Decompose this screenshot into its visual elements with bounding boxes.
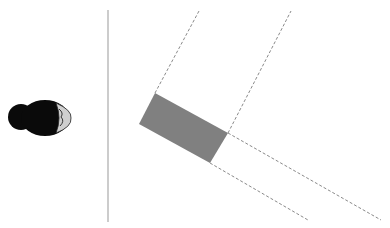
- dashed-line-3: [228, 133, 381, 220]
- person-figure-icon: [8, 100, 71, 136]
- rotated-rectangle: [139, 93, 228, 163]
- diagram-canvas: [0, 0, 390, 228]
- dashed-line-1: [155, 11, 199, 93]
- dashed-line-2: [228, 11, 291, 133]
- dashed-line-4: [210, 163, 308, 220]
